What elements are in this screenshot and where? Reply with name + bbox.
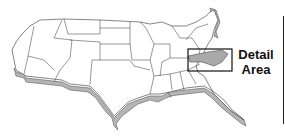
right-divider-line	[283, 16, 284, 124]
detail-area-label-line1: Detail	[234, 47, 278, 62]
detail-area-label-line2: Area	[234, 62, 278, 77]
detail-area-label: Detail Area	[234, 47, 278, 77]
map-landmass	[12, 10, 244, 120]
us-map-figure: Detail Area	[0, 0, 285, 136]
